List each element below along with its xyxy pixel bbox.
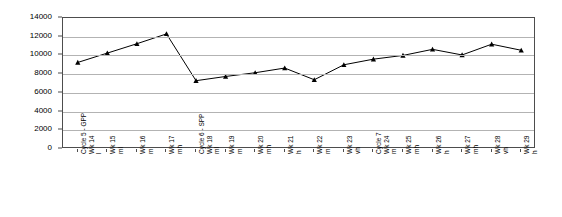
x-tick-mark (136, 149, 137, 152)
x-tick-label-line: vh (353, 136, 361, 154)
x-tick-label: lWk 14Cycle 5 - GPP (80, 113, 103, 154)
x-tick-label: mWk 16 (139, 136, 154, 154)
x-tick-label-line: mh (412, 136, 420, 154)
plot-area (62, 17, 535, 148)
x-tick-label-line: Wk 18 (206, 114, 214, 154)
data-point-marker (489, 42, 494, 47)
y-tick-label: 0 (48, 144, 52, 152)
x-tick-label-line: Cycle 5 - GPP (80, 113, 88, 154)
x-tick-label: mlWk 15 (109, 136, 124, 154)
gridline (63, 37, 534, 38)
x-tick-mark (432, 149, 433, 152)
x-tick-label-line: m (235, 136, 243, 154)
x-tick-mark (284, 149, 285, 152)
x-tick-mark (520, 149, 521, 152)
x-tick-label-line: mh (265, 136, 273, 154)
x-tick-label: vhWk 28 (494, 136, 509, 154)
x-tick-mark (343, 149, 344, 152)
x-tick-mark (491, 149, 492, 152)
x-tick-label-line: Wk 14 (87, 113, 95, 154)
x-tick-label-line: Wk 19 (228, 136, 236, 154)
x-tick-mark (195, 149, 196, 152)
x-tick-label: mWk 22 (316, 136, 331, 154)
y-tick-label: 2000 (34, 125, 52, 133)
x-tick-label-line: ml (213, 114, 221, 154)
x-tick-label-line: m (146, 136, 154, 154)
x-tick-label: mhWk 17 (168, 136, 183, 154)
x-tick-label: vhWk 23 (346, 136, 361, 154)
y-tick-label: 10000 (30, 50, 52, 58)
x-tick-label-line: mh (472, 136, 480, 154)
x-tick-label-line: h (294, 136, 302, 154)
x-tick-label-line: Cycle 6 - SPP (198, 114, 206, 154)
x-tick-label-line: Wk 25 (405, 136, 413, 154)
x-axis: lWk 14Cycle 5 - GPPmlWk 15mWk 16mhWk 17m… (62, 149, 535, 217)
x-tick-mark (106, 149, 107, 152)
x-tick-mark (461, 149, 462, 152)
x-tick-label-line: l (95, 113, 103, 154)
gridline (63, 74, 534, 75)
x-tick-label-line: h (531, 136, 539, 154)
x-tick-label-line: Wk 26 (435, 136, 443, 154)
x-tick-label-line: vh (501, 136, 509, 154)
x-tick-mark (225, 149, 226, 152)
x-tick-label: mhWk 20 (257, 136, 272, 154)
y-tick-label: 6000 (34, 88, 52, 96)
y-tick-label: 4000 (34, 107, 52, 115)
y-tick-label: 14000 (30, 13, 52, 21)
x-tick-label-line: m (390, 132, 398, 154)
x-tick-label-line: Wk 27 (464, 136, 472, 154)
x-tick-label-line: Wk 23 (346, 136, 354, 154)
data-point-marker (430, 47, 435, 52)
x-tick-label-line: Wk 21 (287, 136, 295, 154)
y-axis: 02000400060008000100001200014000 (0, 0, 58, 165)
x-tick-label-line: Wk 16 (139, 136, 147, 154)
x-tick-mark (254, 149, 255, 152)
x-tick-label: hWk 29 (523, 136, 538, 154)
x-tick-mark (402, 149, 403, 152)
y-tick-label: 8000 (34, 69, 52, 77)
x-tick-mark (313, 149, 314, 152)
x-tick-mark (372, 149, 373, 152)
x-tick-label-line: Wk 28 (494, 136, 502, 154)
data-point-marker (164, 31, 169, 36)
gridline (63, 130, 534, 131)
line-chart: 02000400060008000100001200014000 lWk 14C… (0, 0, 562, 217)
x-tick-label: hWk 26 (435, 136, 450, 154)
gridline (63, 55, 534, 56)
x-tick-label: hWk 21 (287, 136, 302, 154)
y-tick-label: 12000 (30, 32, 52, 40)
x-tick-label: mhWk 27 (464, 136, 479, 154)
x-tick-label-line: ml (117, 136, 125, 154)
x-tick-label: mWk 24Cycle 7 (375, 132, 398, 154)
x-tick-label: mhWk 25 (405, 136, 420, 154)
gridline (63, 93, 534, 94)
gridline (63, 112, 534, 113)
x-tick-label-line: mh (176, 136, 184, 154)
x-tick-label: mlWk 18Cycle 6 - SPP (198, 114, 221, 154)
x-tick-mark (77, 149, 78, 152)
x-tick-mark (165, 149, 166, 152)
x-tick-label-line: m (324, 136, 332, 154)
x-tick-label: mWk 19 (228, 136, 243, 154)
x-tick-label-line: h (442, 136, 450, 154)
